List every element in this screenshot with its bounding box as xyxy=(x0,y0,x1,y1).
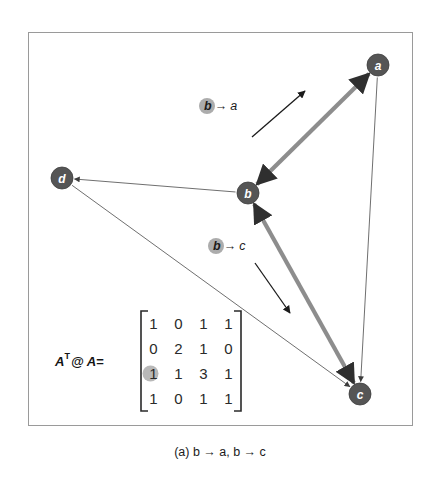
node-circle-c xyxy=(349,383,371,405)
matrix-cell-r1-c0: 0 xyxy=(149,340,157,357)
matrix-cell-r0-c3: 1 xyxy=(224,315,232,332)
graph-node-d[interactable]: d xyxy=(51,167,73,189)
matrix-cell-r2-c1: 1 xyxy=(174,365,182,382)
matrix-cell-r3-c2: 1 xyxy=(199,390,207,407)
graph-node-c[interactable]: c xyxy=(349,383,371,405)
matrix-label: AT@ A= xyxy=(54,351,104,369)
annot-b-c-text: b→c xyxy=(213,239,246,253)
matrix-cell-r3-c3: 1 xyxy=(224,390,232,407)
matrix-cell-r0-c1: 0 xyxy=(174,315,182,332)
figure-caption: (a) b → a, b → c xyxy=(174,445,266,459)
matrix-cell-r3-c1: 0 xyxy=(174,390,182,407)
matrix-cell-r2-c2: 3 xyxy=(199,365,207,382)
annot-b-a-text: b→a xyxy=(204,99,237,113)
figure-canvas: abcd b→ab→c AT@ A= 1011021011311011 (a) … xyxy=(0,0,440,489)
matrix-cell-r2-c0: 1 xyxy=(149,365,157,382)
node-circle-d xyxy=(51,167,73,189)
graph-node-b[interactable]: b xyxy=(237,182,259,204)
figure-container: abcd b→ab→c AT@ A= 1011021011311011 (a) … xyxy=(0,0,440,489)
matrix-cell-r2-c3: 1 xyxy=(224,365,232,382)
matrix-cell-r0-c2: 1 xyxy=(199,315,207,332)
matrix-cell-r1-c3: 0 xyxy=(224,340,232,357)
node-circle-a xyxy=(367,54,389,76)
graph-node-a[interactable]: a xyxy=(367,54,389,76)
matrix-cell-r3-c0: 1 xyxy=(149,390,157,407)
node-circle-b xyxy=(237,182,259,204)
matrix-cell-r1-c2: 1 xyxy=(199,340,207,357)
matrix-cell-r0-c0: 1 xyxy=(149,315,157,332)
matrix-cell-r1-c1: 2 xyxy=(174,340,182,357)
